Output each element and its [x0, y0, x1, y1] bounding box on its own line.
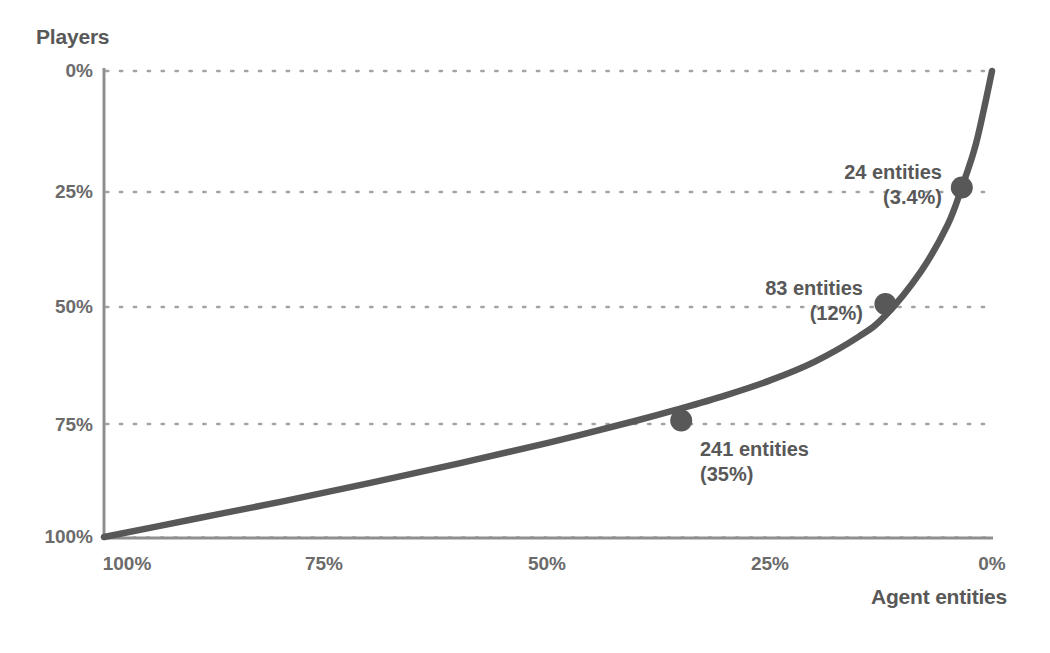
annotation-24-entities-label: 24 entities — [844, 161, 942, 183]
data-point-marker-24-entities[interactable] — [951, 177, 973, 199]
annotation-241-entities: 241 entities (35%) — [700, 437, 950, 487]
annotation-241-entities-sublabel: (35%) — [700, 462, 950, 487]
annotation-83-entities-label: 83 entities — [765, 277, 863, 299]
annotation-24-entities: 24 entities (3.4%) — [720, 160, 942, 210]
annotation-24-entities-sublabel: (3.4%) — [720, 185, 942, 210]
annotation-83-entities-sublabel: (12%) — [630, 301, 863, 326]
chart-container: Players Agent entities 0% 25% 50% 75% 10… — [0, 0, 1050, 653]
annotation-83-entities: 83 entities (12%) — [630, 276, 863, 326]
annotation-241-entities-label: 241 entities — [700, 438, 809, 460]
data-point-marker-241-entities[interactable] — [670, 410, 692, 432]
data-point-marker-83-entities[interactable] — [874, 293, 896, 315]
chart-plot-svg — [0, 0, 1050, 653]
